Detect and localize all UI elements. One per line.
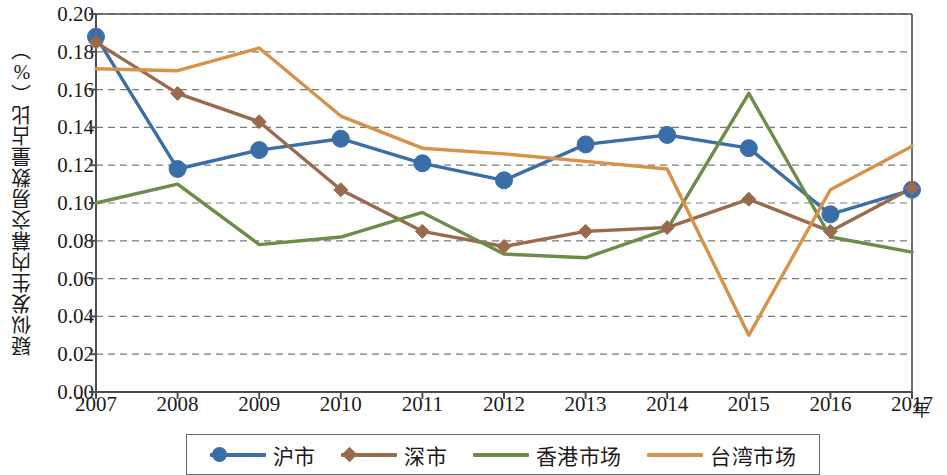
- legend-swatch: [647, 446, 703, 464]
- legend-label: 深市: [404, 440, 447, 470]
- legend-line-icon: [647, 453, 703, 457]
- data-point-marker: [742, 192, 756, 206]
- x-tick-label: 2016: [809, 393, 851, 416]
- data-point-marker: [251, 142, 268, 159]
- legend-label: 台湾市场: [710, 440, 796, 470]
- x-tick-label: 2014: [646, 393, 688, 416]
- x-tick-label: 2008: [157, 393, 199, 416]
- legend-item[interactable]: 香港市场: [473, 440, 622, 470]
- data-point-marker: [415, 224, 429, 238]
- x-tick-label: 2015: [728, 393, 770, 416]
- x-tick-label: 2010: [320, 393, 362, 416]
- legend-label: 香港市场: [536, 440, 622, 470]
- data-point-marker: [822, 206, 839, 223]
- data-point-marker: [169, 160, 186, 177]
- x-axis-tick-labels: 年 20072008200920102011201220132014201520…: [0, 393, 947, 427]
- legend-item[interactable]: 台湾市场: [647, 440, 796, 470]
- legend-item[interactable]: 沪市: [210, 440, 316, 470]
- legend-swatch: [210, 446, 266, 464]
- x-tick-label: 2011: [402, 393, 443, 416]
- x-tick-label: 2012: [483, 393, 525, 416]
- data-point-marker: [659, 126, 676, 143]
- plot-svg: [0, 0, 947, 430]
- data-point-marker: [579, 224, 593, 238]
- x-tick-label: 2017: [891, 393, 933, 416]
- legend-diamond-marker-icon: [342, 447, 358, 463]
- data-point-marker: [496, 172, 513, 189]
- data-point-marker: [740, 140, 757, 157]
- plot-area: [0, 0, 947, 430]
- chart-figure: 疑似发生内幕交易数量占比（%） 0.000.020.040.060.080.10…: [0, 0, 947, 475]
- data-point-marker: [332, 130, 349, 147]
- legend-swatch: [473, 446, 529, 464]
- chart-legend: 沪市深市香港市场台湾市场: [186, 434, 820, 475]
- data-point-marker: [577, 136, 594, 153]
- data-point-marker: [414, 155, 431, 172]
- x-tick-label: 2009: [238, 393, 280, 416]
- legend-line-icon: [473, 453, 529, 457]
- legend-swatch: [341, 446, 397, 464]
- series-line-台湾市场: [96, 48, 912, 335]
- legend-label: 沪市: [273, 440, 316, 470]
- x-tick-label: 2013: [565, 393, 607, 416]
- legend-circle-marker-icon: [212, 447, 227, 462]
- x-tick-label: 2007: [75, 393, 117, 416]
- legend-item[interactable]: 深市: [341, 440, 447, 470]
